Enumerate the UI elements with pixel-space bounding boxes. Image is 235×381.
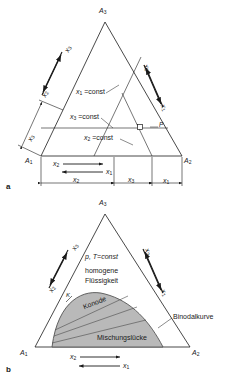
panel-b-mischungsluecke-label: Mischungslücke [97, 334, 147, 341]
panel-a-dim-x2-label: x2 [73, 176, 79, 184]
panel-b-homogeneous-line1: homogene [85, 267, 118, 274]
panel-a-letter: a [6, 183, 10, 191]
panel-b-base-arrow-x1: x1 [123, 362, 129, 370]
panel-a-corner-right: A2 [184, 157, 191, 165]
iso-x2-line [122, 93, 152, 156]
iso-x1-label: x1 =const [76, 88, 105, 96]
panel-a-base-arrow-x2: x2 [53, 160, 59, 168]
panel-a-base-arrows [62, 164, 103, 172]
panel-b-base-arrow-x2: x2 [70, 353, 76, 361]
iso-x3-label: x3 =const [70, 113, 99, 121]
panel-b-corner-right: A2 [192, 349, 199, 357]
panel-b-binodal-leader [158, 318, 172, 328]
panel-a-dim-x3-label: x3 [128, 176, 134, 184]
panel-a-base-arrow-x1: x1 [106, 168, 112, 176]
panel-b-condition-label: p, T=const [85, 253, 118, 260]
panel-b-corner-top: A3 [99, 199, 106, 207]
panel-b-binodalkurve-label: Binodalkurve [173, 313, 213, 320]
panel-a-dim-x1-label: x1 [163, 177, 169, 185]
panel-b-left-edge-arrows [49, 250, 68, 288]
panel-a-corner-top: A3 [99, 7, 106, 15]
panel-a-corner-left: A1 [25, 157, 32, 165]
figure-canvas: A3 A1 A2 x1 =const x3 =const x2 =const P… [0, 0, 235, 381]
panel-b-base-arrows [79, 357, 120, 366]
panel-b-corner-left: A1 [20, 349, 27, 357]
panel-a-left-edge-arrows [42, 52, 62, 95]
panel-b-homogeneous-line2: Flüssigkeit [85, 277, 118, 284]
panel-b-letter: b [6, 366, 11, 374]
panel-b-critical-point-label: K [66, 292, 70, 298]
point-p-label: P [159, 122, 163, 129]
panel-a-right-edge-arrows [144, 65, 163, 107]
diagram-svg [0, 0, 235, 381]
iso-x2-label: x2 =const [84, 134, 113, 142]
point-p-marker [138, 125, 143, 130]
